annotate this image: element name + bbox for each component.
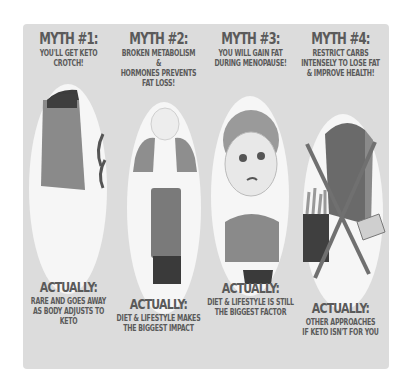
crossed-out-carbs-icon [295, 114, 387, 314]
myth-line: YOU'LL GET KETO [28, 49, 108, 59]
actually-title: ACTUALLY: [215, 280, 286, 296]
myth-line: CROTCH! [28, 59, 108, 69]
myth-line: INTENSELY TO LOSE FAT [300, 59, 380, 69]
actually-line: OTHER APPROACHES [297, 318, 384, 328]
actually-line: DIET & LIFESTYLE MAKES [115, 314, 202, 324]
myth-line: YOU WILL GAIN FAT [210, 49, 290, 59]
myth-line: RESTRICT CARBS [300, 49, 380, 59]
woman-back-skirt-icon [29, 86, 119, 296]
myth-text: YOU'LL GET KETO CROTCH! [28, 49, 108, 69]
actually-title: ACTUALLY: [33, 279, 104, 295]
myth-text: YOU WILL GAIN FAT DURING MENOPAUSE! [210, 49, 290, 69]
myth-title: MYTH #3: [215, 30, 286, 48]
myth-text: BROKEN METABOLISM & HORMONES PREVENTS FA… [118, 49, 198, 89]
actually-text: OTHER APPROACHES IF KETO ISN'T FOR YOU [297, 318, 384, 338]
myth-title: MYTH #4: [305, 30, 376, 48]
myth-line: & IMPROVE HEALTH! [300, 69, 380, 79]
infographic-panel: MYTH #1: YOU'LL GET KETO CROTCH! ACTUALL… [23, 24, 389, 369]
myth-line: DURING MENOPAUSE! [210, 59, 290, 69]
actually-text: DIET & LIFESTYLE IS STILL THE BIGGEST FA… [207, 298, 294, 318]
myth-column-4: MYTH #4: RESTRICT CARBS INTENSELY TO LOS… [295, 24, 386, 369]
myth-column-1: MYTH #1: YOU'LL GET KETO CROTCH! ACTUALL… [23, 24, 114, 369]
actually-line: THE BIGGEST IMPACT [115, 324, 202, 334]
actually-title: ACTUALLY: [123, 296, 194, 312]
myth-text: RESTRICT CARBS INTENSELY TO LOSE FAT & I… [300, 49, 380, 79]
worried-older-woman-icon [213, 102, 293, 302]
myth-line: FAT LOSS! [118, 79, 198, 89]
frustrated-woman-icon [125, 102, 205, 312]
myth-title: MYTH #1: [33, 30, 104, 48]
actually-line: THE BIGGEST FACTOR [207, 308, 294, 318]
myth-line: BROKEN METABOLISM & [118, 49, 198, 69]
myth-column-3: MYTH #3: YOU WILL GAIN FAT DURING MENOPA… [205, 24, 296, 369]
myth-title: MYTH #2: [123, 30, 194, 48]
actually-line: RARE AND GOES AWAY [25, 297, 112, 307]
actually-line: IF KETO ISN'T FOR YOU [297, 328, 384, 338]
actually-line: DIET & LIFESTYLE IS STILL [207, 298, 294, 308]
actually-text: DIET & LIFESTYLE MAKES THE BIGGEST IMPAC… [115, 314, 202, 334]
actually-title: ACTUALLY: [305, 300, 376, 316]
actually-text: RARE AND GOES AWAY AS BODY ADJUSTS TO KE… [25, 297, 112, 327]
actually-line: AS BODY ADJUSTS TO KETO [25, 307, 112, 327]
myth-line: HORMONES PREVENTS [118, 69, 198, 79]
myth-column-2: MYTH #2: BROKEN METABOLISM & HORMONES PR… [113, 24, 204, 369]
